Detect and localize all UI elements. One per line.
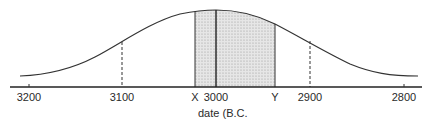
tick-label-2900: 2900 [298,91,322,103]
shaded-interval-x-to-y [195,10,275,87]
x-axis-title: date (B.C. [198,107,248,119]
tick-label-3200: 3200 [17,91,41,103]
marker-label-x: X [191,91,199,103]
tick-label-2800: 2800 [392,91,416,103]
tick-label-3000: 3000 [204,91,228,103]
tick-label-3100: 3100 [110,91,134,103]
radiocarbon-date-distribution: 3200 3100 X 3000 Y 2900 2800 date (B.C. [0,0,431,123]
marker-label-y: Y [271,91,279,103]
